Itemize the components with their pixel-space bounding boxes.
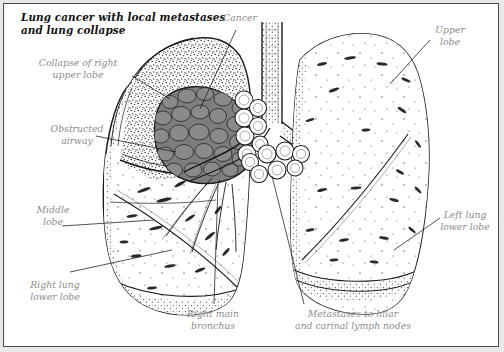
label-cancer: Cancer <box>209 12 271 24</box>
label-middle-lobe: Middle lobe <box>22 204 84 227</box>
left-lung-outline <box>288 32 434 322</box>
label-left-lung-lower-lobe: Left lung lower lobe <box>432 209 498 232</box>
label-upper-lobe: Upper lobe <box>422 24 478 47</box>
label-right-lung-lower-lobe: Right lung lower lobe <box>20 279 90 302</box>
label-collapse-of-right-upper-lobe: Collapse of right upper lobe <box>28 57 128 80</box>
figure-frame: Lung cancer with local metastases and lu… <box>3 3 499 347</box>
label-metastases-to-hilar-and-carinal-lymph-nodes: Metastases to hilar and carinal lymph no… <box>284 308 422 331</box>
label-obstructed-airway: Obstructed airway <box>39 123 115 146</box>
label-right-main-bronchus: Right main bronchus <box>172 308 254 331</box>
